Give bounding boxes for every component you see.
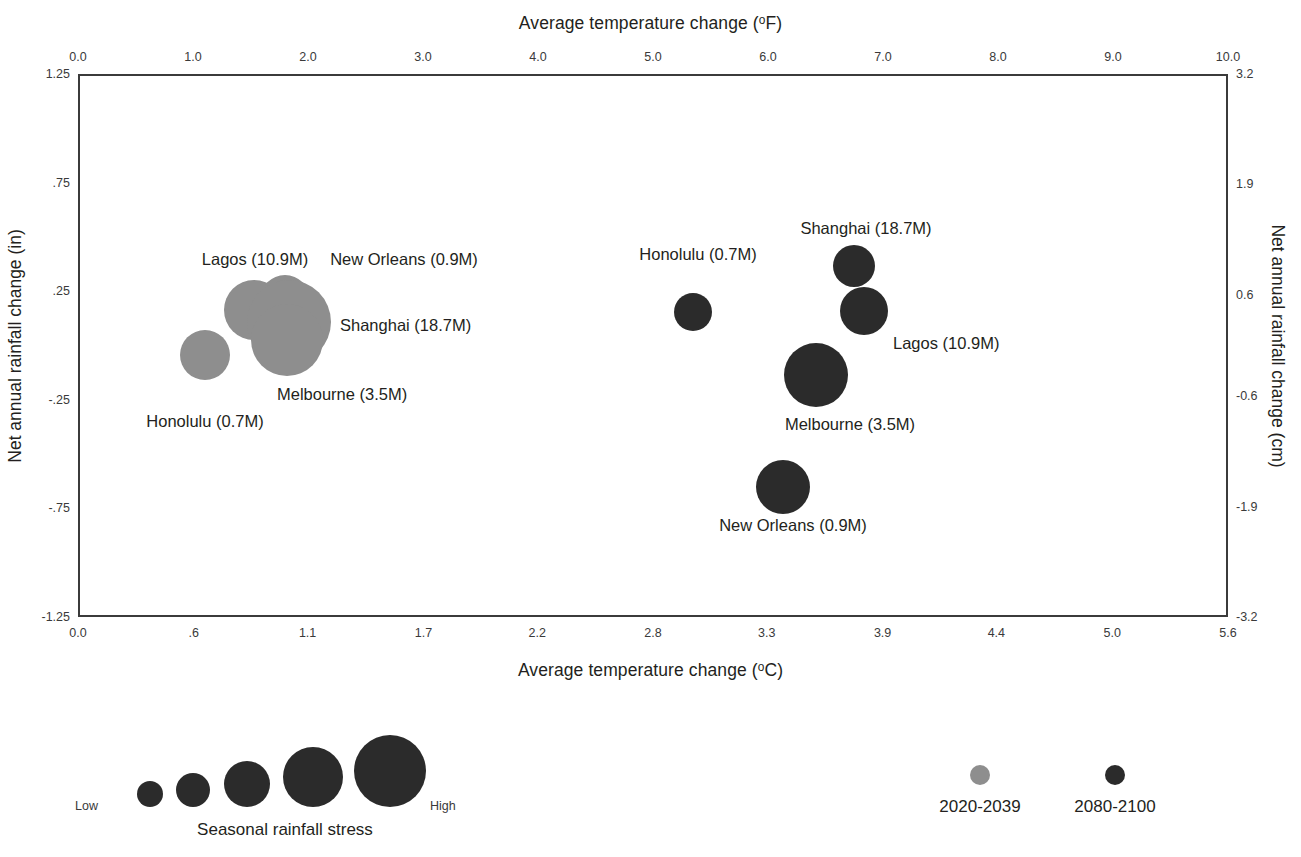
bubble-shanghai-2080-2100[interactable] — [833, 245, 875, 287]
color-legend-label-1: 2080-2100 — [1074, 797, 1155, 817]
size-legend-bubble-2 — [224, 761, 270, 807]
bubble-label-shanghai-2020-2039: Shanghai (18.7M) — [340, 316, 471, 335]
color-legend-dot-1 — [1105, 765, 1125, 785]
color-legend: 2020-20392080-2100 — [940, 765, 1230, 845]
bubble-label-new-orleans-2020-2039: New Orleans (0.9M) — [330, 250, 478, 269]
bubble-label-honolulu-2080-2100: Honolulu (0.7M) — [639, 245, 756, 264]
bubble-label-new-orleans-2080-2100: New Orleans (0.9M) — [719, 516, 867, 535]
bubble-label-lagos-2080-2100: Lagos (10.9M) — [893, 334, 999, 353]
bubble-label-melbourne-2020-2039: Melbourne (3.5M) — [277, 385, 407, 404]
bubble-lagos-2080-2100[interactable] — [840, 287, 888, 335]
size-legend-bubble-1 — [176, 773, 210, 807]
chart-canvas: Average temperature change (oF) Average … — [0, 0, 1301, 857]
color-legend-dot-0 — [970, 765, 990, 785]
bubble-label-lagos-2020-2039: Lagos (10.9M) — [202, 250, 308, 269]
bubble-label-shanghai-2080-2100: Shanghai (18.7M) — [800, 219, 931, 238]
bubble-new-orleans-2080-2100[interactable] — [756, 460, 810, 514]
size-legend-low-label: Low — [75, 799, 98, 813]
size-legend-bubble-3 — [283, 747, 343, 807]
size-legend-caption: Seasonal rainfall stress — [75, 820, 495, 840]
bubble-melbourne-2080-2100[interactable] — [784, 343, 848, 407]
color-legend-label-0: 2020-2039 — [939, 797, 1020, 817]
bubble-label-honolulu-2020-2039: Honolulu (0.7M) — [146, 412, 263, 431]
bubble-honolulu-2020-2039[interactable] — [180, 330, 230, 380]
bubble-label-melbourne-2080-2100: Melbourne (3.5M) — [785, 415, 915, 434]
size-legend-bubble-0 — [137, 781, 163, 807]
size-legend-high-label: High — [430, 799, 456, 813]
size-legend-bubble-4 — [354, 735, 426, 807]
size-legend: Low High Seasonal rainfall stress — [75, 720, 495, 845]
bubble-melbourne-2020-2039[interactable] — [251, 304, 323, 376]
bubble-honolulu-2080-2100[interactable] — [674, 293, 712, 331]
